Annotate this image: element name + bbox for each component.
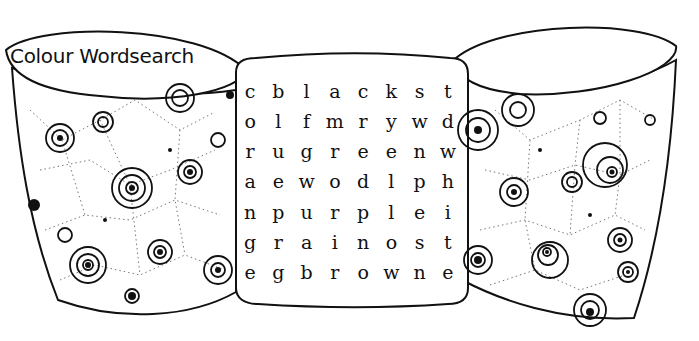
grid-cell[interactable]: y (377, 106, 405, 136)
left-cup-body (12, 68, 236, 314)
grid-cell[interactable]: e (434, 258, 462, 288)
grid-cell[interactable]: r (349, 106, 377, 136)
grid-cell[interactable]: o (349, 258, 377, 288)
grid-cell[interactable]: e (264, 167, 292, 197)
grid-cell[interactable]: s (406, 76, 434, 106)
grid-cell[interactable]: a (236, 167, 264, 197)
grid-cell[interactable]: r (321, 137, 349, 167)
grid-cell[interactable]: l (377, 167, 405, 197)
grid-cell[interactable]: r (321, 197, 349, 227)
grid-cell[interactable]: w (434, 137, 462, 167)
grid-cell[interactable]: w (406, 106, 434, 136)
grid-cell[interactable]: w (377, 258, 405, 288)
grid-cell[interactable]: b (264, 76, 292, 106)
grid-cell[interactable]: d (434, 106, 462, 136)
grid-cell[interactable]: u (293, 197, 321, 227)
grid-cell[interactable]: e (349, 137, 377, 167)
grid-cell[interactable]: d (349, 167, 377, 197)
grid-cell[interactable]: o (321, 167, 349, 197)
grid-cell[interactable]: n (236, 197, 264, 227)
grid-cell[interactable]: t (434, 227, 462, 257)
grid-cell[interactable]: e (406, 197, 434, 227)
grid-cell[interactable]: o (377, 227, 405, 257)
grid-cell[interactable]: l (293, 76, 321, 106)
grid-cell[interactable]: p (406, 167, 434, 197)
grid-cell[interactable]: r (264, 227, 292, 257)
grid-cell[interactable]: c (236, 76, 264, 106)
page-title: Colour Wordsearch (10, 44, 194, 68)
grid-cell[interactable]: s (406, 227, 434, 257)
grid-cell[interactable]: a (293, 227, 321, 257)
grid-cell[interactable]: k (377, 76, 405, 106)
grid-cell[interactable]: m (321, 106, 349, 136)
grid-cell[interactable]: u (264, 137, 292, 167)
grid-cell[interactable]: n (406, 258, 434, 288)
grid-cell[interactable]: l (264, 106, 292, 136)
grid-cell[interactable]: e (377, 137, 405, 167)
grid-cell[interactable]: p (264, 197, 292, 227)
grid-cell[interactable]: r (321, 258, 349, 288)
grid-cell[interactable]: n (406, 137, 434, 167)
grid-cell[interactable]: p (349, 197, 377, 227)
grid-cell[interactable]: a (321, 76, 349, 106)
grid-cell[interactable]: i (434, 197, 462, 227)
wordsearch-worksheet: Colour Wordsearch cblackstolfmrywdrugree… (0, 0, 699, 341)
grid-cell[interactable]: g (236, 227, 264, 257)
grid-cell[interactable]: n (349, 227, 377, 257)
grid-cell[interactable]: c (349, 76, 377, 106)
grid-cell[interactable]: o (236, 106, 264, 136)
right-cup-body (462, 60, 676, 318)
letter-grid: cblackstolfmrywdrugreenwaewodlphnpurplei… (236, 76, 462, 288)
grid-cell[interactable]: t (434, 76, 462, 106)
grid-cell[interactable]: f (293, 106, 321, 136)
grid-cell[interactable]: b (293, 258, 321, 288)
grid-cell[interactable]: i (321, 227, 349, 257)
grid-cell[interactable]: l (377, 197, 405, 227)
grid-cell[interactable]: e (236, 258, 264, 288)
grid-cell[interactable]: g (264, 258, 292, 288)
grid-cell[interactable]: r (236, 137, 264, 167)
grid-cell[interactable]: h (434, 167, 462, 197)
grid-cell[interactable]: g (293, 137, 321, 167)
grid-cell[interactable]: w (293, 167, 321, 197)
